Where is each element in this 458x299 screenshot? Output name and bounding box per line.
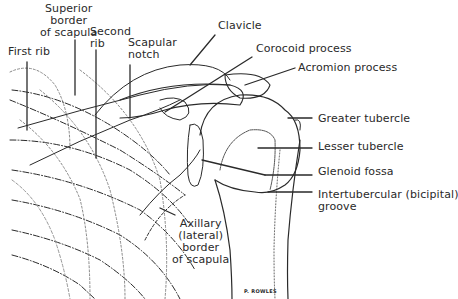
label-first-rib: First rib (8, 46, 50, 58)
label-intertubercular-groove: Intertubercular (bicipital) groove (318, 189, 458, 213)
label-second-rib: Second rib (90, 26, 131, 50)
coracoid (160, 98, 189, 120)
label-axillary-border-of-scapula: Axillary (lateral) border of scapula (172, 218, 229, 266)
ribs (10, 68, 195, 299)
label-superior-border-of-scapula: Superior border of scapula (40, 3, 97, 39)
label-line: of scapula (40, 27, 97, 39)
label-line: rib (90, 38, 131, 50)
label-line: notch (128, 49, 177, 61)
label-scapular-notch: Scapular notch (128, 37, 177, 61)
shoulder-diagram: Superior border of scapula First rib Sec… (0, 0, 458, 299)
glenoid (187, 124, 203, 186)
label-greater-tubercle: Greater tubercle (318, 113, 410, 125)
label-glenoid-fossa: Glenoid fossa (318, 166, 394, 178)
label-line: of scapula (172, 254, 229, 266)
label-coracoid-process: Corocoid process (256, 43, 352, 55)
label-lesser-tubercle: Lesser tubercle (318, 141, 404, 153)
leader-lines (27, 35, 312, 215)
artist-signature: P. ROWLES (244, 288, 277, 294)
label-clavicle: Clavicle (218, 20, 262, 32)
label-acromion-process: Acromion process (298, 62, 397, 74)
label-line: groove (318, 201, 458, 213)
humerus-head (200, 95, 300, 193)
